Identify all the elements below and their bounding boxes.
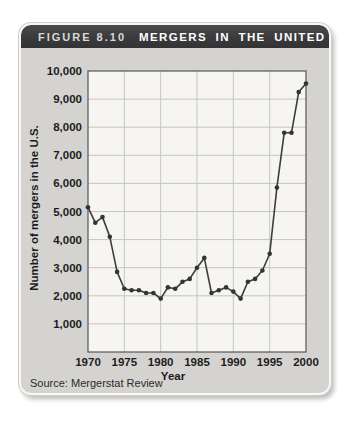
data-point — [100, 215, 105, 220]
data-point — [108, 235, 113, 240]
data-point — [217, 288, 222, 293]
data-point — [224, 285, 229, 290]
y-tick-label: 3,000 — [53, 262, 82, 274]
data-point — [260, 268, 265, 273]
y-tick-label: 7,000 — [53, 149, 82, 161]
y-tick-label: 6,000 — [53, 177, 82, 189]
y-tick-label: 1,000 — [53, 318, 82, 330]
x-tick-label: 1985 — [184, 356, 210, 368]
y-tick-label: 2,000 — [53, 290, 82, 302]
figure-title: MERGERS IN THE UNITED STATES — [139, 31, 331, 43]
data-point — [122, 287, 127, 292]
data-point — [304, 81, 309, 86]
data-point — [282, 131, 287, 136]
x-tick-label: 1990 — [221, 356, 247, 368]
chart-area: 1,0002,0003,0004,0005,0006,0007,0008,000… — [21, 48, 329, 393]
y-tick-label: 10,000 — [47, 65, 82, 77]
figure-header: FIGURE 8.10 MERGERS IN THE UNITED STATES — [21, 25, 329, 48]
data-point — [296, 90, 301, 95]
data-point — [93, 220, 98, 225]
data-point — [187, 277, 192, 282]
y-tick-label: 9,000 — [53, 93, 82, 105]
data-point — [144, 291, 149, 296]
data-point — [166, 285, 171, 290]
data-point — [129, 288, 134, 293]
x-tick-label: 2000 — [293, 356, 319, 368]
textbook-page: FIGURE 8.10 MERGERS IN THE UNITED STATES… — [0, 0, 348, 424]
y-tick-label: 8,000 — [53, 121, 82, 133]
data-point — [209, 291, 214, 296]
data-point — [202, 256, 207, 261]
data-point — [137, 288, 142, 293]
y-tick-label: 5,000 — [53, 206, 82, 218]
y-tick-label: 4,000 — [53, 234, 82, 246]
figure-number: FIGURE 8.10 — [38, 31, 126, 43]
x-axis-title: Year — [161, 370, 186, 382]
data-point — [253, 277, 258, 282]
data-point — [115, 270, 120, 275]
data-point — [267, 251, 272, 256]
data-point — [231, 289, 236, 294]
x-tick-label: 1995 — [257, 356, 283, 368]
figure-card: FIGURE 8.10 MERGERS IN THE UNITED STATES… — [19, 23, 331, 395]
data-point — [289, 131, 294, 136]
data-point — [238, 296, 243, 301]
data-point — [195, 265, 200, 270]
x-tick-label: 1975 — [112, 356, 138, 368]
source-note: Source: Mergerstat Review — [30, 377, 163, 389]
data-point — [158, 296, 163, 301]
data-point — [151, 291, 156, 296]
data-point — [180, 280, 185, 285]
mergers-line-chart: 1,0002,0003,0004,0005,0006,0007,0008,000… — [21, 48, 329, 393]
data-point — [246, 280, 251, 285]
x-tick-label: 1980 — [148, 356, 174, 368]
x-tick-label: 1970 — [75, 356, 101, 368]
data-point — [275, 185, 280, 190]
y-axis-title: Number of mergers in the U.S. — [28, 125, 40, 291]
data-point — [173, 287, 178, 292]
data-point — [86, 205, 91, 210]
